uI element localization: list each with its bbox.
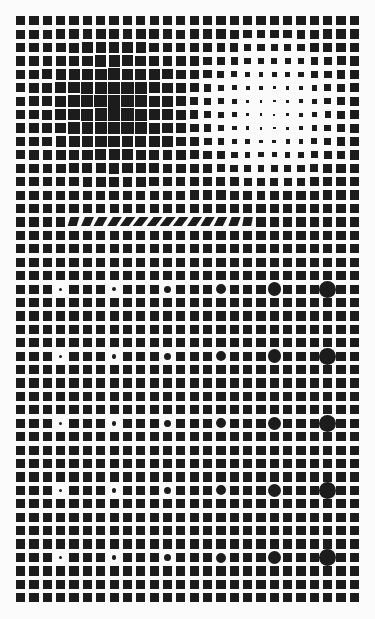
grid-square	[350, 70, 359, 79]
grid-square	[260, 113, 262, 115]
grid-square	[29, 378, 38, 387]
grid-square	[150, 513, 159, 522]
grid-square	[29, 526, 38, 535]
grid-square	[56, 338, 65, 347]
grid-square	[163, 164, 172, 173]
grid-square	[122, 163, 132, 173]
grid-square	[311, 138, 317, 144]
grid-square	[110, 405, 119, 414]
grid-square	[42, 110, 52, 120]
grid-square	[149, 109, 160, 120]
grid-square	[203, 459, 212, 468]
grid-square	[56, 526, 65, 535]
grid-square	[29, 298, 38, 307]
grid-square	[230, 539, 239, 548]
grid-circle	[164, 554, 171, 561]
grid-square	[216, 513, 225, 522]
grid-square	[230, 593, 239, 602]
grid-square	[243, 405, 252, 414]
grid-square	[270, 311, 279, 320]
grid-square	[136, 539, 145, 548]
grid-square	[94, 217, 108, 226]
op-art-grid	[0, 0, 375, 619]
grid-square	[246, 86, 250, 90]
grid-square	[190, 190, 199, 199]
grid-square	[29, 231, 38, 240]
grid-square	[150, 486, 159, 495]
grid-square	[283, 311, 292, 320]
grid-square	[256, 566, 265, 575]
grid-square	[16, 365, 25, 374]
grid-circle	[59, 355, 62, 358]
grid-square	[163, 338, 172, 347]
grid-square	[136, 258, 145, 267]
grid-square	[259, 86, 262, 89]
grid-square	[323, 392, 332, 401]
grid-square	[110, 298, 119, 307]
grid-square	[136, 325, 145, 334]
grid-square	[243, 204, 252, 213]
grid-square	[150, 566, 159, 575]
grid-square	[162, 136, 172, 146]
grid-circle	[319, 415, 336, 432]
grid-square	[217, 151, 224, 158]
grid-square	[323, 298, 332, 307]
grid-square	[310, 177, 319, 186]
grid-square	[204, 138, 212, 146]
grid-square	[350, 43, 359, 52]
grid-square	[162, 123, 172, 133]
grid-square	[336, 526, 345, 535]
grid-square	[350, 244, 359, 253]
grid-square	[163, 432, 172, 441]
grid-square	[336, 419, 345, 428]
grid-square	[350, 580, 359, 589]
grid-square	[163, 258, 172, 267]
grid-square	[110, 526, 119, 535]
grid-square	[190, 365, 199, 374]
grid-square	[256, 459, 265, 468]
grid-square	[312, 112, 317, 117]
grid-square	[218, 85, 224, 91]
grid-square	[43, 352, 52, 361]
grid-square	[42, 137, 52, 147]
grid-square	[203, 566, 212, 575]
grid-square	[296, 432, 305, 441]
grid-square	[283, 16, 292, 25]
grid-square	[96, 526, 105, 535]
grid-square	[96, 325, 105, 334]
grid-square	[110, 513, 119, 522]
grid-square	[256, 231, 265, 240]
grid-square	[246, 126, 250, 130]
grid-square	[230, 338, 239, 347]
grid-square	[176, 593, 185, 602]
grid-square	[29, 150, 38, 159]
grid-square	[176, 459, 185, 468]
grid-square	[273, 100, 275, 102]
grid-square	[162, 96, 173, 107]
grid-square	[96, 191, 105, 200]
grid-square	[43, 16, 52, 25]
grid-square	[150, 580, 159, 589]
grid-square	[136, 177, 146, 187]
grid-square	[56, 325, 65, 334]
grid-square	[176, 325, 185, 334]
grid-square	[56, 513, 65, 522]
grid-square	[286, 113, 289, 116]
grid-square	[230, 419, 239, 428]
grid-square	[228, 217, 240, 226]
grid-square	[69, 539, 78, 548]
grid-square	[135, 109, 147, 121]
grid-square	[285, 58, 291, 64]
grid-square	[56, 392, 65, 401]
grid-square	[82, 122, 94, 134]
grid-square	[110, 325, 119, 334]
grid-square	[336, 553, 345, 562]
grid-square	[95, 122, 107, 134]
grid-square	[95, 149, 106, 160]
grid-square	[163, 392, 172, 401]
grid-square	[283, 392, 292, 401]
grid-square	[350, 513, 359, 522]
grid-square	[16, 43, 25, 52]
grid-square	[96, 231, 105, 240]
grid-square	[123, 378, 132, 387]
